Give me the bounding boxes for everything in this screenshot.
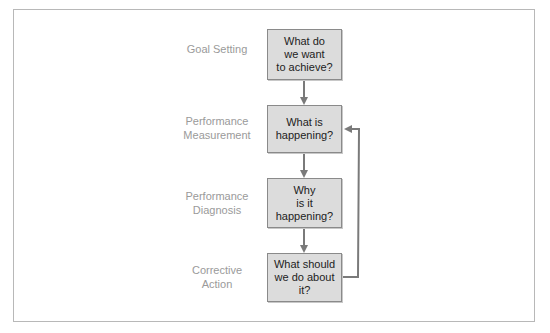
feedback-loop-arrow bbox=[342, 129, 359, 277]
box-corrective-action: What should we do about it? bbox=[267, 253, 342, 302]
stage-label-corrective-action: Corrective Action bbox=[162, 263, 272, 291]
box-goal-setting: What do we want to achieve? bbox=[267, 29, 342, 80]
box-question-measurement: What is happening? bbox=[276, 116, 334, 142]
stage-label-performance-diagnosis: Performance Diagnosis bbox=[162, 189, 272, 217]
stage-label-goal-setting: Goal Setting bbox=[162, 42, 272, 56]
box-performance-diagnosis: Why is it happening? bbox=[267, 178, 342, 228]
box-question-diagnosis: Why is it happening? bbox=[276, 184, 334, 223]
box-performance-measurement: What is happening? bbox=[267, 105, 342, 153]
stage-label-performance-measurement: Performance Measurement bbox=[162, 114, 272, 142]
box-question-goal: What do we want to achieve? bbox=[276, 35, 332, 74]
box-question-action: What should we do about it? bbox=[274, 258, 335, 297]
